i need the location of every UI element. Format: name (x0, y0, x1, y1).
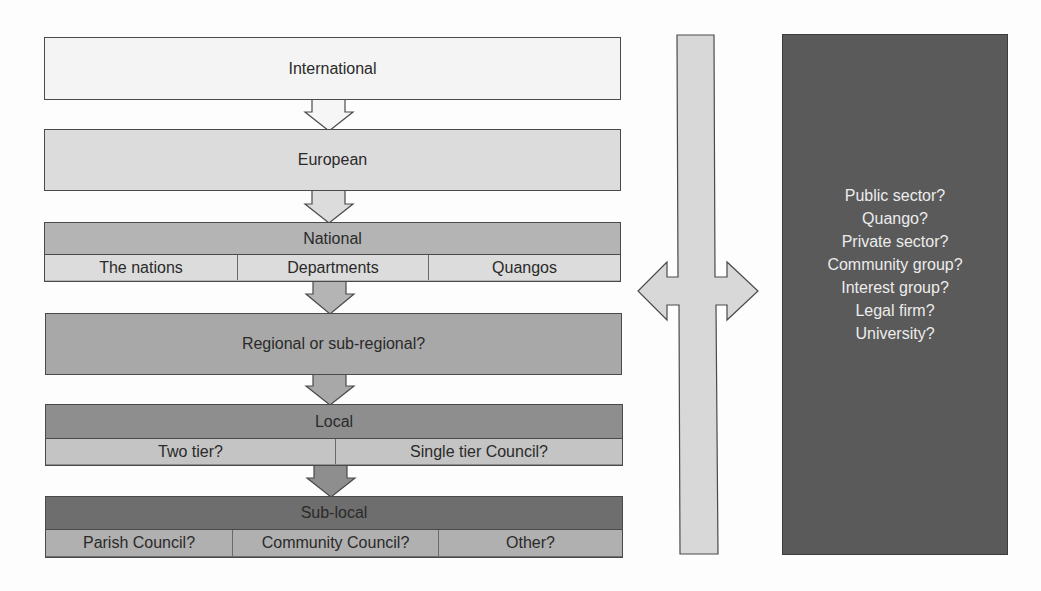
level-european: European (44, 129, 621, 191)
subdivision-cell: Other? (439, 530, 622, 556)
subdivision-cell: Two tier? (46, 439, 336, 464)
level-sub-local: Sub-local Parish Council? Community Coun… (45, 496, 623, 558)
subdivision-cell: Departments (238, 255, 429, 280)
organisation-item: Interest group? (841, 276, 949, 299)
level-regional: Regional or sub-regional? (45, 313, 622, 375)
organisation-item: University? (855, 322, 934, 345)
organisation-item: Private sector? (842, 230, 949, 253)
level-title: International (45, 38, 620, 99)
bidirectional-arrow-icon (638, 35, 758, 554)
level-title: European (45, 130, 620, 190)
level-title: Local (46, 405, 622, 438)
organisation-item: Public sector? (845, 184, 946, 207)
level-local: Local Two tier? Single tier Council? (45, 404, 623, 466)
down-arrow-icon (305, 99, 353, 131)
level-title: National (45, 223, 620, 254)
subdivision-cell: Quangos (429, 255, 620, 280)
subdivision-cell: The nations (45, 255, 238, 280)
level-title: Regional or sub-regional? (46, 314, 621, 374)
level-international: International (44, 37, 621, 100)
organisation-item: Community group? (827, 253, 962, 276)
subdivision-cell: Single tier Council? (336, 439, 622, 464)
down-arrow-icon (306, 374, 354, 405)
subdivision-cell: Parish Council? (46, 530, 233, 556)
organisations-box: Public sector? Quango? Private sector? C… (782, 34, 1008, 555)
down-arrow-icon (307, 465, 355, 497)
subdivision-cell: Community Council? (233, 530, 439, 556)
level-national: National The nations Departments Quangos (44, 222, 621, 282)
organisation-item: Legal firm? (855, 299, 934, 322)
level-title: Sub-local (46, 497, 622, 529)
down-arrow-icon (306, 281, 354, 314)
down-arrow-icon (305, 190, 353, 223)
organisation-item: Quango? (862, 207, 928, 230)
